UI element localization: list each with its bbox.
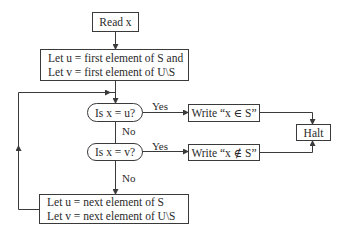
edge-write-in-to-halt	[260, 113, 313, 125]
edge-label-yes-u: Yes	[152, 100, 168, 112]
flowchart: Read x Let u = first element of S and Le…	[0, 0, 341, 238]
node-halt: Halt	[296, 124, 331, 141]
node-write-in-s-label: Write “x ∈ S”	[191, 106, 256, 120]
edge-label-yes-v: Yes	[152, 140, 168, 152]
decision-x-equals-v-label: Is x = v?	[95, 145, 135, 159]
node-next: Let u = next element of S Let v = next e…	[39, 194, 189, 224]
node-write-not-in-s: Write “x ∉ S”	[188, 144, 260, 161]
node-next-line2: Let v = next element of U\S	[47, 209, 175, 223]
node-next-line1: Let u = next element of S	[47, 195, 164, 209]
decision-x-equals-u-label: Is x = u?	[95, 106, 135, 120]
node-halt-label: Halt	[304, 126, 324, 140]
node-write-in-s: Write “x ∈ S”	[188, 104, 260, 122]
node-read-x-label: Read x	[99, 15, 131, 29]
edge-label-no-v: No	[122, 172, 135, 184]
decision-x-equals-v: Is x = v?	[87, 143, 143, 161]
decision-x-equals-u: Is x = u?	[87, 103, 143, 122]
node-init: Let u = first element of S and Let v = f…	[40, 49, 189, 81]
node-read-x: Read x	[92, 12, 139, 32]
node-init-line2: Let v = first element of U\S	[48, 65, 175, 79]
edge-label-no-u: No	[122, 125, 135, 137]
node-write-not-in-s-label: Write “x ∉ S”	[191, 146, 256, 160]
node-init-line1: Let u = first element of S and	[48, 51, 183, 65]
edge-write-notin-to-halt	[260, 141, 313, 153]
